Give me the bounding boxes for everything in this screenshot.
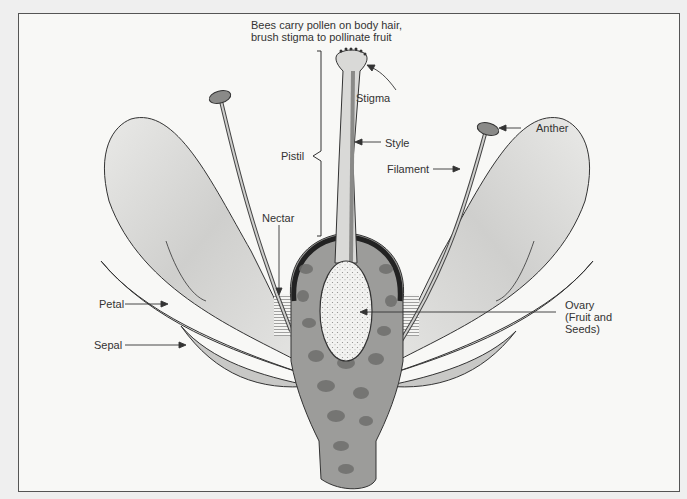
right-petal (393, 118, 593, 373)
label-filament: Filament (387, 163, 429, 175)
pistil (335, 48, 367, 264)
label-nectar: Nectar (262, 212, 294, 224)
label-ovary-line-1: Ovary (565, 299, 612, 311)
label-style: Style (385, 137, 409, 149)
diagram-frame: Bees carry pollen on body hair, brush st… (18, 13, 680, 492)
pistil-bracket (313, 51, 321, 236)
left-petal (101, 118, 301, 373)
label-anther: Anther (536, 122, 568, 134)
flower-illustration (19, 14, 681, 493)
label-ovary-line-2: (Fruit and (565, 311, 612, 323)
label-pistil: Pistil (281, 150, 304, 162)
right-anther (476, 120, 500, 137)
label-ovary: Ovary (Fruit and Seeds) (565, 299, 612, 335)
label-stigma: Stigma (356, 92, 390, 104)
label-ovary-line-3: Seeds) (565, 323, 612, 335)
left-anther (208, 88, 232, 105)
label-petal: Petal (99, 298, 124, 310)
label-sepal: Sepal (94, 339, 122, 351)
